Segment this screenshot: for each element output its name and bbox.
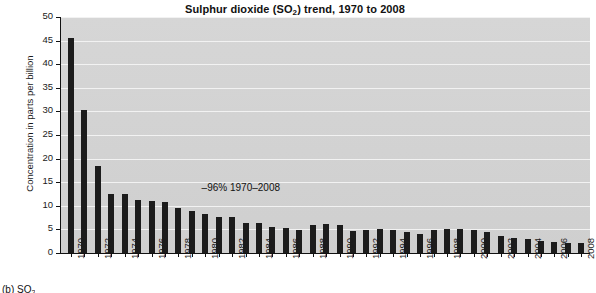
y-axis-tick-label: 40	[27, 57, 53, 68]
x-axis-tick	[299, 253, 300, 257]
x-axis-tick	[366, 253, 367, 257]
x-axis-tick	[326, 253, 327, 257]
x-axis-tick	[165, 253, 166, 257]
bar	[283, 228, 289, 253]
x-axis-tick	[474, 253, 475, 257]
x-axis-tick	[407, 253, 408, 257]
figure-caption: (b) SO2	[2, 284, 35, 293]
x-axis-tick	[541, 253, 542, 257]
x-axis-tick	[246, 253, 247, 257]
bar	[310, 225, 316, 253]
x-axis-tick	[192, 253, 193, 257]
y-axis-tick-label: 30	[27, 104, 53, 115]
bar	[256, 223, 262, 253]
x-axis-tick	[272, 253, 273, 257]
gridline	[61, 182, 590, 183]
x-axis-tick	[219, 253, 220, 257]
x-axis-tick	[420, 253, 421, 257]
y-axis-tick	[56, 206, 61, 207]
bar	[498, 236, 504, 253]
x-axis-tick	[286, 253, 287, 257]
bar	[417, 234, 423, 253]
bar	[471, 230, 477, 253]
x-axis-tick	[340, 253, 341, 257]
bar	[95, 166, 101, 253]
bar	[122, 194, 128, 253]
bar	[444, 229, 450, 253]
bar	[525, 239, 531, 253]
x-axis-tick	[125, 253, 126, 257]
y-axis-tick	[56, 111, 61, 112]
bar	[81, 110, 87, 253]
x-axis-tick	[353, 253, 354, 257]
gridline	[61, 64, 590, 65]
y-axis-tick-label: 15	[27, 175, 53, 186]
x-axis-tick	[487, 253, 488, 257]
x-axis-tick	[554, 253, 555, 257]
bar	[390, 230, 396, 253]
bar	[175, 208, 181, 253]
plot-area	[61, 17, 590, 253]
gridline	[61, 111, 590, 112]
figure-caption-text: (b) SO	[2, 284, 31, 293]
x-axis-tick	[581, 253, 582, 257]
bar	[337, 225, 343, 253]
y-axis-tick	[56, 88, 61, 89]
bar	[551, 242, 557, 253]
x-axis-tick	[393, 253, 394, 257]
bar	[68, 38, 74, 253]
x-axis-tick	[178, 253, 179, 257]
gridline	[61, 159, 590, 160]
x-axis-tick	[447, 253, 448, 257]
gridline	[61, 41, 590, 42]
gridline	[61, 135, 590, 136]
y-axis-tick	[56, 17, 61, 18]
chart-title-tail: ) trend, 1970 to 2008	[297, 3, 405, 15]
chart-title-main: Sulphur dioxide (SO	[185, 3, 293, 15]
bar	[149, 201, 155, 253]
y-axis-tick-label: 10	[27, 199, 53, 210]
x-axis-tick	[232, 253, 233, 257]
x-axis-tick	[259, 253, 260, 257]
y-axis-tick	[56, 64, 61, 65]
y-axis-tick	[56, 182, 61, 183]
y-axis-tick-label: 25	[27, 128, 53, 139]
x-axis-tick	[111, 253, 112, 257]
trend-annotation: –96% 1970–2008	[202, 182, 280, 193]
bar	[578, 243, 584, 253]
figure-caption-subscript: 2	[31, 289, 35, 293]
bar	[202, 214, 208, 253]
y-axis-tick	[56, 253, 61, 254]
x-axis-tick-label: 2008	[585, 238, 596, 259]
x-axis-tick	[514, 253, 515, 257]
y-axis-tick	[56, 159, 61, 160]
x-axis-tick	[501, 253, 502, 257]
x-axis-tick	[152, 253, 153, 257]
y-axis-tick-label: 20	[27, 152, 53, 163]
x-axis-tick	[568, 253, 569, 257]
gridline	[61, 88, 590, 89]
x-axis-tick	[205, 253, 206, 257]
y-axis-tick-label: 0	[27, 246, 53, 257]
y-axis-tick	[56, 229, 61, 230]
y-axis-tick	[56, 41, 61, 42]
x-axis-tick	[71, 253, 72, 257]
x-axis-tick	[434, 253, 435, 257]
x-axis-tick	[84, 253, 85, 257]
y-axis-tick-label: 45	[27, 34, 53, 45]
x-axis-tick	[313, 253, 314, 257]
y-axis-tick	[56, 135, 61, 136]
x-axis-tick	[460, 253, 461, 257]
y-axis-tick-label: 35	[27, 81, 53, 92]
x-axis-tick	[138, 253, 139, 257]
y-axis-tick-label: 50	[27, 10, 53, 21]
bar	[229, 217, 235, 253]
x-axis-tick	[380, 253, 381, 257]
gridline	[61, 17, 590, 18]
chart-title: Sulphur dioxide (SO2) trend, 1970 to 200…	[0, 3, 590, 17]
y-axis-tick-label: 5	[27, 222, 53, 233]
bar	[363, 230, 369, 253]
x-axis-tick	[98, 253, 99, 257]
x-axis-tick	[528, 253, 529, 257]
